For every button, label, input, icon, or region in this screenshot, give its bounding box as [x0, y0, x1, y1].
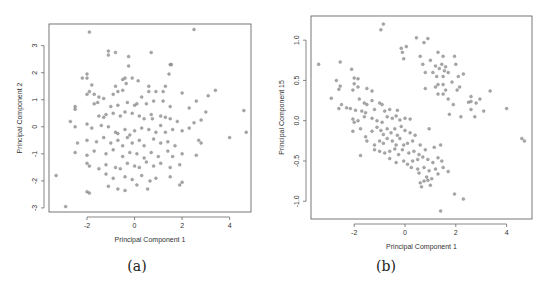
data-point — [121, 89, 124, 92]
data-point — [116, 188, 119, 191]
data-point — [400, 125, 403, 128]
x-tick-label: 4 — [505, 229, 509, 236]
data-point — [426, 158, 429, 161]
data-point — [112, 177, 115, 180]
data-point — [386, 115, 389, 118]
data-point — [127, 55, 130, 58]
y-axis-label: Principal Component 2 — [16, 82, 24, 153]
data-point — [124, 189, 127, 192]
data-point — [105, 152, 108, 155]
data-point — [170, 63, 173, 66]
data-point — [164, 131, 167, 134]
y-axis: -3-2-10123 — [31, 44, 44, 211]
x-tick-label: 4 — [228, 222, 232, 229]
data-point — [150, 51, 153, 54]
plot-frame — [311, 16, 532, 219]
data-point — [88, 165, 91, 168]
data-point — [151, 117, 154, 120]
data-point — [339, 85, 342, 88]
data-point — [388, 150, 391, 153]
data-point — [401, 148, 404, 151]
data-point — [402, 57, 405, 60]
data-point — [433, 146, 436, 149]
data-point — [360, 110, 363, 113]
data-point — [116, 104, 119, 107]
data-point — [371, 117, 374, 120]
y-tick-label: 2 — [31, 71, 38, 75]
x-tick-label: 2 — [454, 229, 458, 236]
data-point — [146, 188, 149, 191]
data-point — [140, 96, 143, 99]
y-tick-label: 0 — [31, 125, 38, 129]
data-point — [245, 131, 248, 134]
data-point — [86, 93, 89, 96]
data-point — [430, 177, 433, 180]
data-point — [371, 99, 374, 102]
data-point — [86, 73, 89, 76]
data-point — [126, 162, 129, 165]
data-point — [131, 178, 134, 181]
data-point — [391, 117, 394, 120]
data-point — [147, 85, 150, 88]
data-point — [114, 166, 117, 169]
data-point — [140, 127, 143, 130]
data-point — [109, 105, 112, 108]
data-point — [128, 151, 131, 154]
data-point — [102, 116, 105, 119]
data-point — [451, 81, 454, 84]
data-point — [470, 108, 473, 111]
data-point — [419, 143, 422, 146]
data-point — [200, 142, 203, 145]
data-point — [371, 130, 374, 133]
data-point — [150, 151, 153, 154]
data-point — [159, 115, 162, 118]
scatter-plot-pc1-vs-pc15: -2024Principal Component 1-1.0-0.50.00.5… — [275, 0, 551, 287]
data-point — [395, 114, 398, 117]
data-point — [124, 175, 127, 178]
data-point — [470, 95, 473, 98]
y-tick-label: -3 — [31, 205, 38, 211]
data-point — [435, 75, 438, 78]
data-point — [131, 142, 134, 145]
data-point — [143, 117, 146, 120]
data-point — [152, 100, 155, 103]
data-point — [169, 117, 172, 120]
data-point — [447, 71, 450, 74]
data-point — [242, 109, 245, 112]
data-point — [520, 137, 523, 140]
data-point — [505, 107, 508, 110]
data-point — [444, 65, 447, 68]
data-point — [350, 68, 353, 71]
data-point — [88, 90, 91, 93]
data-point — [482, 110, 485, 113]
data-point — [150, 113, 153, 116]
data-point — [379, 28, 382, 31]
data-point — [193, 28, 196, 31]
data-point — [178, 183, 181, 186]
data-point — [135, 102, 138, 105]
data-point — [97, 96, 100, 99]
data-point — [416, 168, 419, 171]
data-point — [439, 143, 442, 146]
data-point — [437, 156, 440, 159]
data-point — [424, 148, 427, 151]
data-point — [131, 112, 134, 115]
data-point — [393, 147, 396, 150]
data-point — [102, 97, 105, 100]
data-point — [462, 73, 465, 76]
data-point — [214, 89, 217, 92]
data-point — [359, 154, 362, 157]
data-point — [339, 60, 342, 63]
x-tick-label: 0 — [403, 229, 407, 236]
data-point — [353, 121, 356, 124]
data-point — [96, 101, 99, 104]
data-point — [434, 168, 437, 171]
data-point — [93, 93, 96, 96]
data-point — [386, 127, 389, 130]
data-point — [431, 161, 434, 164]
data-point — [135, 183, 138, 186]
data-point — [428, 169, 431, 172]
data-point — [135, 152, 138, 155]
data-point — [188, 127, 191, 130]
y-tick-label: 0.5 — [293, 75, 300, 85]
